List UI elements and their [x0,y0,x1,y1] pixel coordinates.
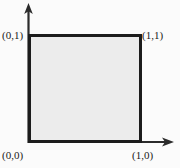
unit-square-shape [30,36,141,142]
corner-label-top-right: (1,1) [142,29,163,41]
corner-label-top-left: (0,1) [2,29,23,41]
unit-square-figure: (0,1) (1,1) (0,0) (1,0) [0,0,180,168]
figure-canvas [0,0,180,168]
corner-label-bottom-right: (1,0) [132,149,153,161]
corner-label-bottom-left: (0,0) [2,149,23,161]
